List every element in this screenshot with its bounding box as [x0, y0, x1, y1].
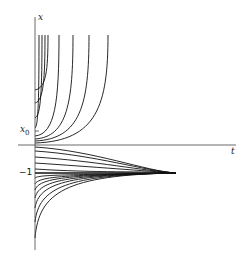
x0-label-sub: 0: [25, 129, 29, 137]
lower-solution-curve: [35, 151, 176, 173]
y-axis-label: x: [38, 12, 43, 22]
minus-one-label: −1: [19, 167, 32, 177]
x0-label: x0: [20, 124, 30, 137]
x-axis-label: t: [231, 146, 235, 156]
solution-curves-diagram: [0, 0, 252, 260]
upper-solution-curve: [35, 35, 108, 143]
lower-solution-curve: [35, 173, 176, 238]
upper-solution-curve: [35, 35, 45, 103]
upper-solution-curve: [35, 35, 39, 128]
lower-solution-curve: [35, 173, 176, 222]
solution-curves: [35, 35, 176, 238]
lower-solution-curve: [35, 147, 176, 173]
